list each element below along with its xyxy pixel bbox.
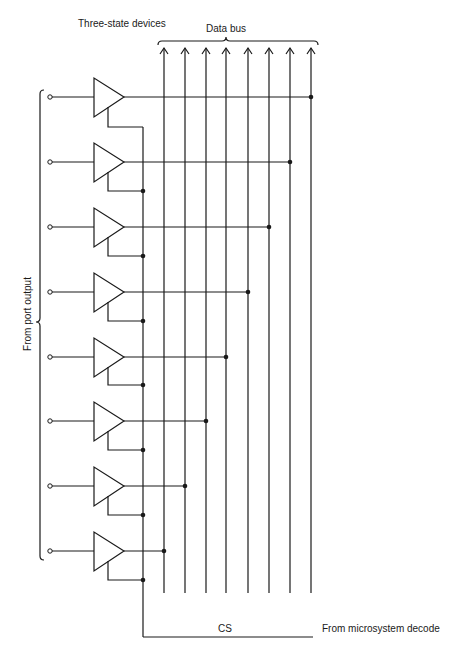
port-output-brace xyxy=(36,90,44,560)
junction-dot xyxy=(141,513,146,518)
input-terminal-icon xyxy=(48,95,52,99)
three-state-buffer-icon xyxy=(94,467,124,506)
enable-wire xyxy=(108,367,143,385)
junction-dot xyxy=(204,419,209,424)
junction-dot xyxy=(141,448,146,453)
data-bus-label: Data bus xyxy=(196,23,256,35)
junction-dot xyxy=(309,95,314,100)
junction-dot xyxy=(141,189,146,194)
three-state-buffer-icon xyxy=(94,208,124,247)
three-state-buffer-icon xyxy=(94,273,124,312)
enable-wire xyxy=(108,302,143,321)
junction-dot xyxy=(162,549,167,554)
junction-dot xyxy=(141,254,146,259)
junction-dot xyxy=(288,160,293,165)
input-terminal-icon xyxy=(48,484,52,488)
input-terminal-icon xyxy=(48,290,52,294)
junction-dot xyxy=(267,225,272,230)
three-state-buffer-icon xyxy=(94,143,124,182)
junction-dot xyxy=(246,290,251,295)
from-port-output-label: From port output xyxy=(22,264,34,364)
three-state-buffer-icon xyxy=(94,338,124,377)
input-terminal-icon xyxy=(48,549,52,553)
junction-dot xyxy=(141,319,146,324)
three-state-buffer-icon xyxy=(94,402,124,441)
enable-wire xyxy=(108,561,143,580)
enable-wire xyxy=(108,172,143,191)
junction-dot xyxy=(141,578,146,583)
three-state-buffer-icon xyxy=(94,78,124,117)
three-state-devices-label: Three-state devices xyxy=(78,18,138,30)
input-terminal-icon xyxy=(48,419,52,423)
enable-wire xyxy=(108,431,143,450)
input-terminal-icon xyxy=(48,160,52,164)
three-state-buffer-icon xyxy=(94,532,124,571)
from-microsystem-decode-label: From microsystem decode xyxy=(322,623,440,635)
junction-dot xyxy=(141,383,146,388)
data-bus-brace xyxy=(158,37,318,45)
enable-wire xyxy=(108,107,143,127)
input-terminal-icon xyxy=(48,355,52,359)
enable-wire xyxy=(108,237,143,256)
cs-label: CS xyxy=(218,623,232,635)
three-state-bus-diagram xyxy=(0,0,449,656)
junction-dot xyxy=(183,484,188,489)
enable-wire xyxy=(108,496,143,515)
input-terminal-icon xyxy=(48,225,52,229)
junction-dot xyxy=(224,355,229,360)
